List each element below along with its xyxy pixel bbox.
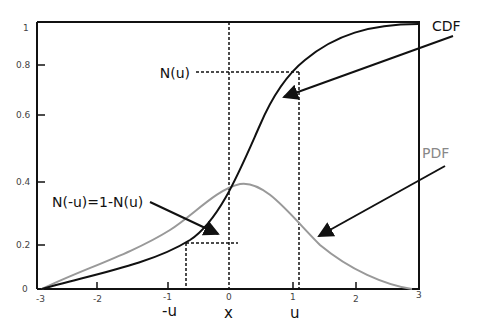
minus-u-label: -u xyxy=(162,302,177,320)
pdf-arrow xyxy=(319,166,445,236)
y-tick-labels: 1 0.8 0.6 0.4 0.2 0 xyxy=(16,23,31,294)
svg-text:-3: -3 xyxy=(36,294,45,304)
svg-text:3: 3 xyxy=(416,290,422,300)
svg-text:-2: -2 xyxy=(93,294,102,304)
svg-text:-1: -1 xyxy=(163,292,172,302)
x-tick-labels: -3 -2 -1 0 1 2 3 xyxy=(36,290,422,304)
cdf-curve xyxy=(42,24,418,289)
x-ticks xyxy=(97,282,356,289)
svg-text:0.4: 0.4 xyxy=(16,177,31,187)
svg-text:1: 1 xyxy=(23,23,29,33)
y-ticks xyxy=(37,65,45,245)
x-label: x xyxy=(224,304,233,322)
nu-label: N(u) xyxy=(160,65,190,81)
svg-text:0: 0 xyxy=(226,292,232,302)
nmu-label: N(-u)=1-N(u) xyxy=(52,194,143,210)
svg-text:1: 1 xyxy=(290,292,296,302)
pdf-label: PDF xyxy=(422,145,449,161)
cdf-pdf-diagram: 1 0.8 0.6 0.4 0.2 0 -3 -2 -1 0 1 2 3 xyxy=(0,0,477,334)
dashed-guides xyxy=(186,22,299,289)
svg-text:2: 2 xyxy=(353,294,359,304)
u-label: u xyxy=(290,304,300,322)
svg-text:0: 0 xyxy=(22,284,28,294)
svg-text:0.8: 0.8 xyxy=(16,60,31,70)
cdf-label: CDF xyxy=(432,18,461,34)
svg-text:0.2: 0.2 xyxy=(16,240,30,250)
cdf-arrow xyxy=(284,36,453,97)
svg-text:0.6: 0.6 xyxy=(16,110,31,120)
nmu-arrow xyxy=(150,202,218,234)
